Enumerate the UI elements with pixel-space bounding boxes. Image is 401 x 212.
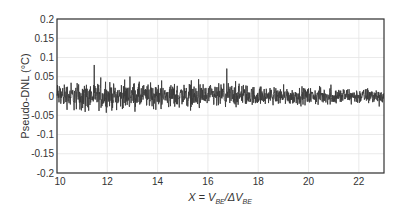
y-tick-label: 0.05	[35, 71, 55, 82]
y-tick-label: 0.2	[40, 14, 54, 25]
y-axis-label: Pseudo-DNL (°C)	[19, 53, 31, 138]
x-tick-label: 18	[253, 176, 265, 187]
x-axis-ticks: 10121416182022	[54, 176, 364, 187]
y-tick-label: -0.15	[31, 148, 54, 159]
data-series-pseudo-dnl	[57, 65, 384, 113]
y-tick-label: 0.1	[40, 52, 54, 63]
y-tick-label: 0.15	[35, 33, 55, 44]
y-tick-label: -0.1	[37, 129, 55, 140]
x-tick-label: 22	[353, 176, 365, 187]
y-axis-ticks: -0.2-0.15-0.1-0.0500.050.10.150.2	[31, 14, 54, 179]
x-tick-label: 12	[102, 176, 114, 187]
x-tick-label: 20	[303, 176, 315, 187]
signal-line	[57, 65, 384, 113]
x-axis-label: X = VBE/ΔVBE	[187, 191, 252, 205]
chart: -0.2-0.15-0.1-0.0500.050.10.150.2 101214…	[0, 0, 401, 212]
x-tick-label: 14	[152, 176, 164, 187]
x-tick-label: 16	[202, 176, 214, 187]
y-tick-label: 0	[48, 91, 54, 102]
x-tick-label: 10	[54, 176, 66, 187]
y-tick-label: -0.2	[37, 168, 55, 179]
y-tick-label: -0.05	[31, 110, 54, 121]
